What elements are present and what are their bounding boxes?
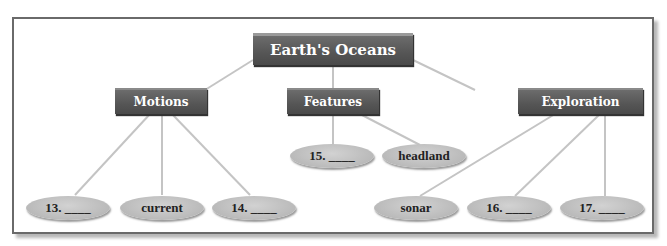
category-node-motions: Motions <box>115 88 207 114</box>
leaf-node-13-blank: 13. ____ <box>26 196 110 220</box>
leaf-node-16-blank: 16. ____ <box>467 196 551 220</box>
leaf-node-17-blank: 17. ____ <box>560 196 644 220</box>
leaf-node-current: current <box>120 196 204 220</box>
leaf-node-15-blank: 15. ____ <box>290 144 374 168</box>
leaf-node-14-blank: 14. ____ <box>212 196 296 220</box>
category-node-features: Features <box>287 88 379 114</box>
category-node-exploration: Exploration <box>518 88 643 114</box>
root-node-earths-oceans: Earth's Oceans <box>253 33 413 65</box>
leaf-node-headland: headland <box>382 144 466 168</box>
leaf-node-sonar: sonar <box>374 196 458 220</box>
